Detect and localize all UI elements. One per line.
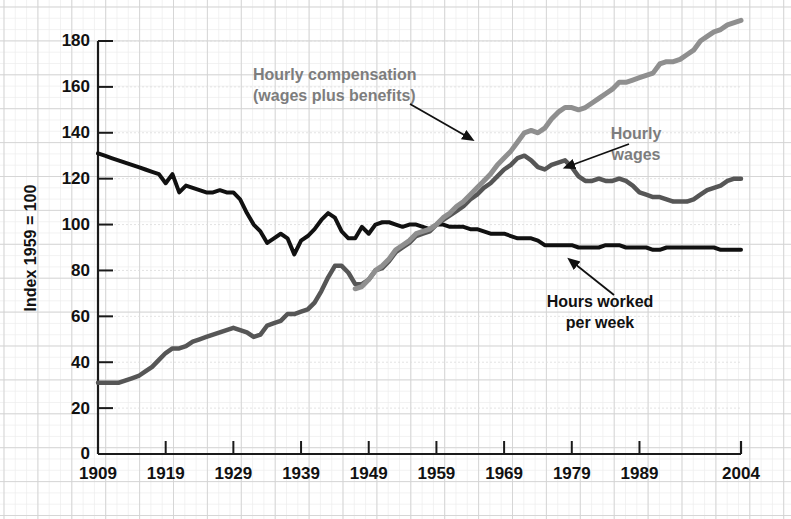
y-tick-label: 140 [62,123,90,142]
x-tick-label: 1929 [214,464,252,483]
y-tick-label: 40 [71,353,90,372]
y-tick-label: 120 [62,169,90,188]
ann-compensation-line: Hourly compensation [253,66,417,83]
y-axis-title-text: Index 1959 = 100 [22,185,39,312]
ann-hours-line: per week [566,314,635,331]
x-tick-label: 1909 [79,464,117,483]
ann-compensation-line: (wages plus benefits) [253,87,416,104]
y-tick-label: 180 [62,31,90,50]
x-tick-label: 1939 [282,464,320,483]
x-tick-label: 1919 [147,464,185,483]
ann-wages-line: Hourly [611,125,662,142]
y-tick-label: 0 [81,444,90,463]
y-tick-label: 60 [71,307,90,326]
x-tick-label: 1959 [418,464,456,483]
x-tick-label: 1969 [485,464,523,483]
y-axis-title: Index 1959 = 100 [22,185,39,312]
line-chart: 020406080100120140160180 190919191929193… [0,0,791,519]
y-tick-label: 100 [62,215,90,234]
x-tick-label: 1979 [553,464,591,483]
x-axis-tick-labels: 1909191919291939194919591969197919892004 [79,464,760,483]
x-tick-label: 2004 [722,464,760,483]
y-tick-label: 160 [62,77,90,96]
y-tick-label: 20 [71,399,90,418]
y-tick-label: 80 [71,261,90,280]
x-tick-label: 1949 [350,464,388,483]
ann-hours-line: Hours worked [547,293,654,310]
chart-container: 020406080100120140160180 190919191929193… [0,0,791,519]
x-tick-label: 1989 [621,464,659,483]
